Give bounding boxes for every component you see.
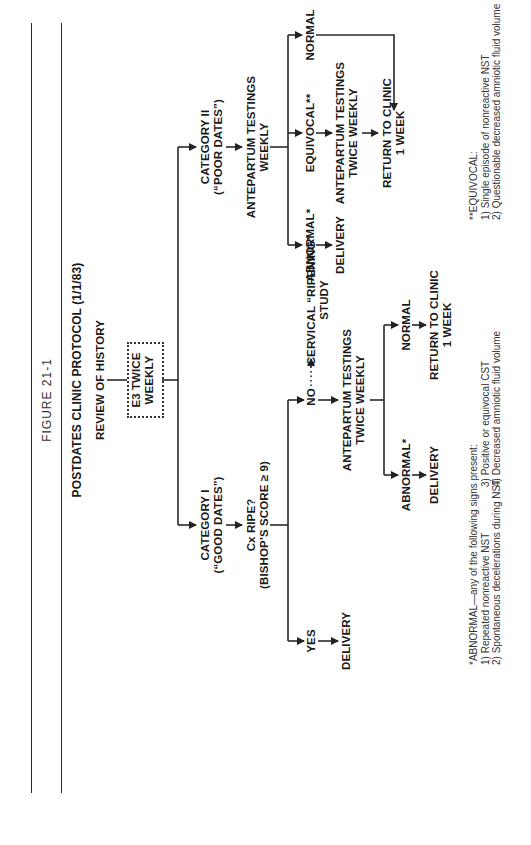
abnormal-footnote: *ABNORMAL—any of the following signs pre…	[468, 331, 503, 665]
c2-delivery-node: DELIVERY	[334, 216, 347, 274]
c1-antepartum-node: ANTEPARTUM TESTINGS TWICE WEEKLY	[341, 329, 367, 471]
c2-antepartum-twice-node: ANTEPARTUM TESTINGS TWICE WEEKLY	[334, 62, 360, 204]
equivocal-item-1: 1) Single episode of nonreactive NST	[480, 4, 492, 220]
cx-ripe-node: Cx RIPE? (BISHOP’S SCORE ≥ 9)	[245, 461, 271, 589]
c1-abnormal-node: ABNORMAL*	[400, 439, 413, 511]
equivocal-item-2: 2) Questionable decreased amniotic fluid…	[491, 4, 503, 220]
c1-delivery-node: DELIVERY	[428, 446, 441, 504]
no-node: NO	[305, 388, 318, 405]
review-of-history-node: REVIEW OF HISTORY	[94, 320, 107, 440]
yes-node: YES	[305, 629, 318, 652]
abnormal-item-1: 1) Repeated nonreactive NST	[480, 487, 492, 665]
c2-equivocal-node: EQUIVOCAL**	[304, 94, 317, 172]
c1-return-node: RETURN TO CLINIC 1 WEEK	[428, 270, 454, 380]
abnormal-item-2: 2) Spontaneous decelerations during NST	[491, 487, 503, 665]
category-ii-node: CATEGORY II (“POOR DATES”)	[199, 99, 225, 195]
category-i-node: CATEGORY I (“GOOD DATES”)	[199, 476, 225, 573]
rotated-page: FIGURE 21-1 POSTDATES CLINIC PROTOCOL (1…	[0, 0, 531, 845]
e3-twice-weekly-node: E3 TWICE WEEKLY	[130, 352, 156, 407]
abnormal-item-3: 3) Positive or equivocal CST	[480, 361, 492, 487]
c2-abnormal-node: ABNORMAL*	[304, 209, 317, 281]
c1-normal-node: NORMAL	[400, 299, 413, 350]
c2-return-node: RETURN TO CLINIC 1 WEEK	[381, 78, 407, 188]
equivocal-footnote: **EQUIVOCAL: 1) Single episode of nonrea…	[468, 4, 503, 220]
yes-delivery-node: DELIVERY	[340, 612, 353, 670]
c2-normal-node: NORMAL	[304, 9, 317, 60]
c2-antepartum-node: ANTEPARTUM TESTINGS WEEKLY	[245, 76, 271, 218]
abnormal-item-4: 4) Decreased amniotic fluid volume	[491, 331, 503, 487]
